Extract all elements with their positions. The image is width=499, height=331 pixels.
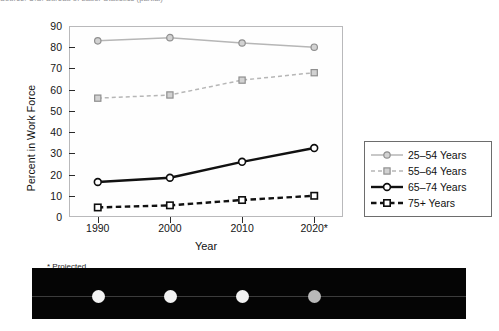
plot-series-svg bbox=[69, 26, 343, 217]
scan-artifact-strip bbox=[32, 268, 466, 319]
legend-item: 55–64 Years bbox=[370, 163, 487, 179]
line-chart: 0102030405060708090 Percent in Work Forc… bbox=[0, 10, 360, 265]
series-data-point bbox=[167, 174, 174, 181]
x-tick-mark bbox=[242, 217, 243, 223]
y-tick-label: 50 bbox=[40, 106, 62, 116]
x-tick-mark bbox=[170, 217, 171, 223]
scan-strip-dot bbox=[164, 290, 177, 303]
chart-legend: 25–54 Years55–64 Years65–74 Years75+ Yea… bbox=[364, 141, 492, 217]
y-tick-mark bbox=[69, 153, 75, 154]
legend-item: 65–74 Years bbox=[370, 179, 487, 195]
source-caption: Source: U.S. Bureau of Labor Statistics … bbox=[0, 0, 260, 5]
legend-item-label: 25–54 Years bbox=[408, 149, 466, 161]
y-tick-label: 40 bbox=[40, 127, 62, 137]
y-tick-mark bbox=[69, 196, 75, 197]
y-tick-mark bbox=[69, 111, 75, 112]
series-data-point bbox=[95, 204, 101, 210]
scan-strip-dot bbox=[308, 290, 321, 303]
y-tick-mark bbox=[69, 175, 75, 176]
legend-key-icon bbox=[370, 148, 404, 162]
legend-key-icon bbox=[370, 196, 404, 210]
series-data-point bbox=[167, 202, 173, 208]
legend-item-label: 75+ Years bbox=[408, 197, 455, 209]
series-data-point bbox=[167, 92, 173, 98]
x-tick-mark bbox=[98, 217, 99, 223]
y-tick-mark bbox=[69, 132, 75, 133]
legend-item-label: 55–64 Years bbox=[408, 165, 466, 177]
series-data-point bbox=[239, 77, 245, 83]
series-data-point bbox=[311, 145, 318, 152]
series-data-point bbox=[95, 95, 101, 101]
y-tick-label: 0 bbox=[40, 212, 62, 222]
legend-item-label: 65–74 Years bbox=[408, 181, 466, 193]
y-tick-label: 60 bbox=[40, 85, 62, 95]
x-tick-label: 2000 bbox=[148, 222, 192, 234]
y-tick-mark bbox=[69, 90, 75, 91]
series-data-point bbox=[94, 179, 101, 186]
series-line bbox=[98, 38, 314, 48]
x-tick-mark bbox=[314, 217, 315, 223]
source-caption-text: Source: U.S. Bureau of Labor Statistics … bbox=[0, 0, 260, 5]
x-tick-label: 2020* bbox=[292, 222, 336, 234]
y-axis-ticks: 0102030405060708090 bbox=[38, 10, 62, 265]
y-tick-label: 90 bbox=[40, 21, 62, 31]
series-data-point bbox=[167, 34, 173, 40]
series-data-point bbox=[239, 197, 245, 203]
series-data-point bbox=[95, 38, 101, 44]
series-data-point bbox=[311, 44, 317, 50]
legend-item: 25–54 Years bbox=[370, 147, 487, 163]
y-tick-mark bbox=[69, 68, 75, 69]
y-tick-mark bbox=[69, 47, 75, 48]
legend-key-icon bbox=[370, 164, 404, 178]
y-tick-label: 80 bbox=[40, 42, 62, 52]
y-axis-title: Percent in Work Force bbox=[25, 63, 37, 213]
series-line bbox=[98, 196, 314, 208]
y-tick-label: 20 bbox=[40, 170, 62, 180]
scan-strip-dot bbox=[236, 290, 249, 303]
legend-item: 75+ Years bbox=[370, 195, 487, 211]
scan-strip-dot bbox=[92, 290, 105, 303]
series-data-point bbox=[311, 70, 317, 76]
series-data-point bbox=[239, 158, 246, 165]
series-line bbox=[98, 73, 314, 98]
x-tick-label: 1990 bbox=[76, 222, 120, 234]
y-tick-label: 30 bbox=[40, 148, 62, 158]
series-data-point bbox=[311, 193, 317, 199]
y-tick-label: 10 bbox=[40, 191, 62, 201]
series-line bbox=[98, 148, 314, 182]
legend-key-icon bbox=[370, 180, 404, 194]
y-tick-label: 70 bbox=[40, 63, 62, 73]
series-data-point bbox=[239, 40, 245, 46]
x-tick-label: 2010 bbox=[220, 222, 264, 234]
x-axis-title: Year bbox=[69, 240, 343, 252]
